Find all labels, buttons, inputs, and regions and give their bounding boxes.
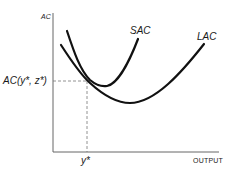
tangency-cost-label: AC(y*, z*) — [3, 75, 47, 86]
y-axis-label: AC — [41, 13, 51, 20]
lac-label: LAC — [197, 31, 216, 42]
x-axis-label: OUTPUT — [193, 157, 223, 164]
sac-label: SAC — [130, 25, 151, 36]
sac-curve — [67, 31, 138, 86]
tangency-output-label: y* — [81, 155, 90, 166]
